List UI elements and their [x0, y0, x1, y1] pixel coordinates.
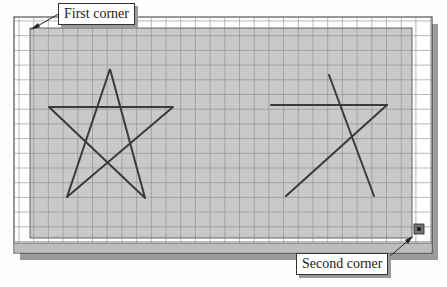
first-corner-callout: First corner [58, 3, 135, 25]
second-corner-callout: Second corner [296, 253, 388, 275]
window-bottom-bar [15, 243, 432, 253]
drawing-canvas[interactable] [0, 0, 447, 287]
first-corner-label: First corner [64, 6, 129, 21]
grip-center [417, 227, 421, 231]
cad-figure: First corner Second corner [0, 0, 447, 287]
second-corner-label: Second corner [302, 256, 382, 271]
